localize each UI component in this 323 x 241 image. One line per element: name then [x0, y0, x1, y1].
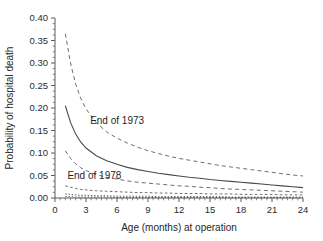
y-tick-label: 0.20 [30, 102, 49, 113]
curve-label: End of 1978 [67, 170, 121, 181]
x-tick-label: 18 [236, 204, 247, 215]
y-tick-label: 0.05 [30, 170, 49, 181]
y-tick-label: 0.10 [30, 147, 49, 158]
probability-of-hospital-death-chart: 0.000.050.100.150.200.250.300.350.40 036… [0, 0, 323, 241]
x-tick-label: 9 [145, 204, 150, 215]
x-tick-label: 12 [174, 204, 185, 215]
x-tick-label: 21 [267, 204, 278, 215]
y-axis-tick-labels: 0.000.050.100.150.200.250.300.350.40 [30, 12, 49, 203]
figure-canvas: 0.000.050.100.150.200.250.300.350.40 036… [0, 0, 323, 241]
y-tick-label: 0.30 [30, 57, 49, 68]
y-tick-label: 0.35 [30, 35, 49, 46]
x-tick-label: 6 [114, 204, 119, 215]
y-tick-label: 0.15 [30, 125, 49, 136]
y-axis-title: Probability of hospital death [4, 47, 15, 170]
curve-label: End of 1973 [90, 115, 144, 126]
x-tick-label: 0 [52, 204, 57, 215]
y-tick-label: 0.40 [30, 12, 49, 23]
x-tick-label: 24 [298, 204, 309, 215]
y-tick-label: 0.25 [30, 80, 49, 91]
x-tick-label: 3 [83, 204, 88, 215]
y-tick-label: 0.00 [30, 192, 49, 203]
x-axis-title: Age (months) at operation [121, 222, 237, 233]
x-tick-label: 15 [205, 204, 216, 215]
